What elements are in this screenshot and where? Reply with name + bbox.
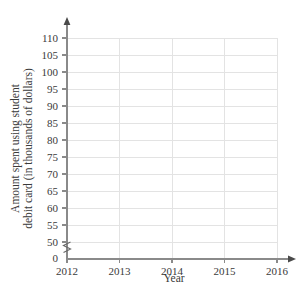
y-tick-label-80: 80 [47, 134, 59, 146]
axis-break-icon [64, 242, 71, 253]
x-tick-label-2013: 2013 [109, 265, 132, 277]
y-tick-label-85: 85 [47, 117, 59, 129]
y-tick-marks [62, 38, 67, 242]
chart-container: Amount spent using student debit card (i… [0, 0, 304, 297]
plot-area: 110 105 100 95 90 85 80 75 70 65 60 55 5… [0, 0, 304, 297]
y-tick-label-70: 70 [47, 168, 59, 180]
y-tick-label-60: 60 [47, 202, 59, 214]
y-tick-labels: 110 105 100 95 90 85 80 75 70 65 60 55 5… [42, 32, 59, 264]
y-tick-label-105: 105 [42, 49, 59, 61]
x-tick-label-2016: 2016 [266, 265, 289, 277]
up-arrow-icon [64, 17, 71, 25]
y-tick-label-90: 90 [47, 100, 59, 112]
y-tick-label-50: 50 [47, 236, 59, 248]
x-tick-label-2014: 2014 [161, 265, 184, 277]
y-tick-label-55: 55 [47, 219, 59, 231]
y-tick-label-110: 110 [42, 32, 59, 44]
y-tick-label-100: 100 [42, 66, 59, 78]
x-tick-label-2015: 2015 [214, 265, 237, 277]
x-tick-label-2012: 2012 [56, 265, 78, 277]
vertical-gridlines [120, 38, 278, 259]
y-tick-label-95: 95 [47, 83, 59, 95]
y-tick-label-75: 75 [47, 151, 59, 163]
y-tick-label-65: 65 [47, 185, 59, 197]
y-tick-label-0: 0 [53, 252, 59, 264]
right-arrow-icon [288, 256, 296, 263]
x-tick-labels: 2012 2013 2014 2015 2016 [56, 265, 289, 277]
